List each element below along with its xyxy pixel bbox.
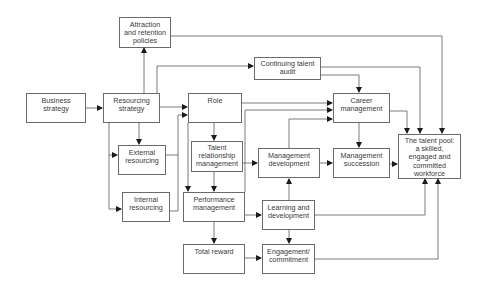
node-label: Resourcing strategy [104, 97, 159, 113]
node-performance-management: Performance management [183, 192, 245, 222]
node-label: Management succession [334, 152, 389, 168]
node-label: Management development [259, 152, 319, 168]
node-label: Learning and development [263, 204, 314, 220]
node-label: Engagement/ commitment [263, 248, 314, 264]
node-talent-relationship-management: Talent relationship management [191, 141, 243, 172]
node-label: Total reward [184, 248, 244, 256]
node-label: Career management [334, 97, 389, 113]
node-career-management: Career management [333, 93, 390, 123]
node-label: Internal resourcing [123, 196, 169, 212]
node-attraction-retention: Attraction and retention policies [119, 17, 171, 48]
node-internal-resourcing: Internal resourcing [122, 192, 170, 222]
node-engagement-commitment: Engagement/ commitment [262, 244, 315, 274]
node-continuing-talent-audit: Continuing talent audit [254, 57, 321, 80]
node-talent-pool: The talent pool: a skilled, engaged and … [398, 134, 461, 179]
node-external-resourcing: External resourcing [118, 145, 166, 175]
node-resourcing-strategy: Resourcing strategy [103, 93, 160, 123]
node-label: Performance management [184, 196, 244, 212]
node-label: Continuing talent audit [255, 60, 320, 76]
node-learning-development: Learning and development [262, 200, 315, 230]
node-label: External resourcing [119, 149, 165, 165]
node-total-reward: Total reward [183, 244, 245, 274]
node-label: Talent relationship management [192, 144, 242, 169]
node-label: Business strategy [27, 97, 85, 113]
node-label: Role [189, 97, 241, 105]
talent-management-diagram: Attraction and retention policies Busine… [0, 0, 485, 289]
node-role: Role [188, 93, 242, 123]
node-management-succession: Management succession [333, 148, 390, 178]
node-business-strategy: Business strategy [26, 93, 86, 123]
node-label: The talent pool: a skilled, engaged and … [399, 137, 460, 178]
node-label: Attraction and retention policies [120, 21, 170, 46]
node-management-development: Management development [258, 148, 320, 178]
